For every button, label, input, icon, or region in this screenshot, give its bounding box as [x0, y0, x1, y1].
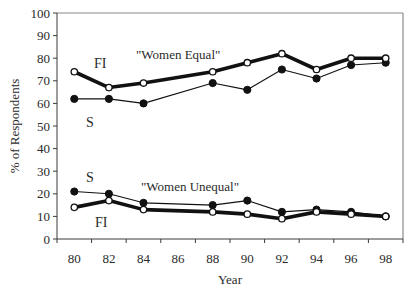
- y-tick-label: 100: [31, 6, 51, 21]
- filled-circle-marker-icon: [71, 188, 78, 195]
- filled-circle-marker-icon: [278, 66, 285, 73]
- y-tick-label: 70: [37, 73, 50, 88]
- filled-circle-marker-icon: [209, 202, 216, 209]
- x-tick-label: 84: [137, 251, 151, 266]
- x-axis-title: Year: [218, 272, 243, 287]
- filled-circle-marker-icon: [105, 95, 112, 102]
- series-label: FI: [94, 56, 107, 71]
- group-label: "Women Equal": [136, 47, 220, 62]
- filled-circle-marker-icon: [348, 61, 355, 68]
- y-tick-label: 0: [44, 232, 51, 247]
- open-circle-marker-icon: [279, 215, 285, 221]
- y-tick-label: 30: [37, 164, 50, 179]
- filled-circle-marker-icon: [209, 79, 216, 86]
- y-tick-label: 60: [37, 96, 50, 111]
- filled-circle-marker-icon: [105, 190, 112, 197]
- group-label: "Women Unequal": [141, 179, 239, 194]
- filled-circle-marker-icon: [140, 199, 147, 206]
- x-tick-label: 94: [310, 251, 324, 266]
- x-tick-label: 88: [206, 251, 219, 266]
- x-axis: 80828486889092949698: [57, 239, 403, 266]
- plot-frame: [57, 13, 403, 239]
- series-line-fi: [74, 54, 385, 88]
- open-circle-marker-icon: [313, 209, 319, 215]
- y-tick-label: 20: [37, 186, 50, 201]
- x-tick-label: 82: [102, 251, 115, 266]
- line-chart: 0102030405060708090100 80828486889092949…: [0, 0, 414, 297]
- filled-circle-marker-icon: [278, 208, 285, 215]
- filled-circle-marker-icon: [140, 100, 147, 107]
- x-tick-label: 98: [379, 251, 392, 266]
- open-circle-marker-icon: [140, 206, 146, 212]
- open-circle-marker-icon: [348, 211, 354, 217]
- open-circle-marker-icon: [383, 213, 389, 219]
- filled-circle-marker-icon: [71, 95, 78, 102]
- series-label: S: [86, 115, 94, 130]
- open-circle-marker-icon: [140, 80, 146, 86]
- x-tick-label: 80: [68, 251, 81, 266]
- open-circle-marker-icon: [348, 55, 354, 61]
- y-tick-label: 40: [37, 141, 50, 156]
- open-circle-marker-icon: [71, 204, 77, 210]
- y-tick-label: 80: [37, 51, 50, 66]
- y-tick-label: 90: [37, 28, 50, 43]
- chart-canvas: 0102030405060708090100 80828486889092949…: [0, 0, 414, 297]
- x-tick-label: 92: [275, 251, 288, 266]
- open-circle-marker-icon: [210, 69, 216, 75]
- filled-circle-marker-icon: [313, 75, 320, 82]
- x-tick-label: 96: [345, 251, 359, 266]
- y-tick-label: 50: [37, 119, 50, 134]
- series-label: S: [86, 170, 94, 185]
- filled-circle-marker-icon: [244, 86, 251, 93]
- open-circle-marker-icon: [313, 66, 319, 72]
- series-lines: [71, 50, 390, 221]
- open-circle-marker-icon: [244, 211, 250, 217]
- open-circle-marker-icon: [279, 50, 285, 56]
- open-circle-marker-icon: [71, 69, 77, 75]
- y-axis: 0102030405060708090100: [31, 6, 58, 247]
- series-label: FI: [95, 215, 108, 230]
- filled-circle-marker-icon: [244, 197, 251, 204]
- open-circle-marker-icon: [383, 55, 389, 61]
- open-circle-marker-icon: [210, 209, 216, 215]
- open-circle-marker-icon: [106, 84, 112, 90]
- open-circle-marker-icon: [106, 197, 112, 203]
- y-axis-title: % of Respondents: [7, 79, 22, 174]
- y-tick-label: 10: [37, 209, 50, 224]
- series-group-women-equal: [71, 50, 390, 107]
- open-circle-marker-icon: [244, 60, 250, 66]
- x-tick-label: 90: [241, 251, 254, 266]
- x-tick-label: 86: [172, 251, 186, 266]
- cropped-caption-text: [50, 292, 290, 297]
